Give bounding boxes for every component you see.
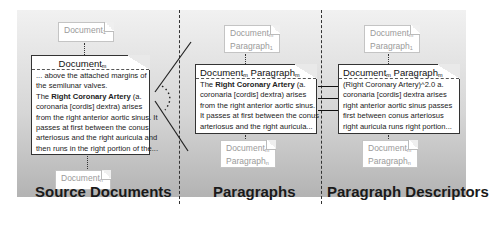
page-fold-icon: [266, 140, 276, 150]
section-label-source-documents: Source Documents: [35, 183, 172, 200]
paragraph-text: The Right Coronary Artery (a. coronaria …: [196, 79, 316, 133]
page-fold-icon: [104, 22, 114, 32]
section-label-paragraph-descriptors: Paragraph Descriptors: [327, 183, 489, 200]
section-label-paragraphs: Paragraphs: [213, 183, 296, 200]
page-fold-icon: [101, 170, 111, 180]
descriptor-first: Documentm Paragraph1: [364, 25, 420, 53]
ellipsis-connector: [245, 54, 246, 64]
ellipsis-connector: [388, 54, 389, 64]
paragraph-first: Documentm Paragraph1: [224, 25, 280, 53]
page-fold-icon: [128, 55, 150, 71]
page-fold-icon: [438, 64, 460, 80]
highlighted-term: Right Coronary Artery: [51, 92, 130, 101]
page-fold-icon: [295, 64, 317, 80]
source-document-first: Document1: [58, 22, 114, 42]
document-text: ... above the attached margins of the se…: [32, 70, 149, 155]
descriptor-text: (Right Coronary Artery)^2.0 a. coronaria…: [339, 79, 459, 133]
page-fold-icon: [270, 25, 280, 35]
descriptor-last: Documentm Paragraphn: [362, 140, 418, 168]
ellipsis-connector: [87, 156, 88, 169]
paragraph-last: Documentm Paragraphn: [220, 140, 276, 168]
highlighted-term: Right Coronary Artery: [215, 80, 294, 89]
source-document-main: Documentm ... above the attached margins…: [31, 55, 150, 155]
ellipsis-connector: [84, 43, 85, 55]
paragraph-main: Documentm Paragraphm The Right Coronary …: [195, 64, 317, 134]
descriptor-main: Documentm Paragraphm (Right Coronary Art…: [338, 64, 460, 134]
document-label: Document: [64, 25, 103, 35]
page-fold-icon: [408, 140, 418, 150]
page-fold-icon: [410, 25, 420, 35]
